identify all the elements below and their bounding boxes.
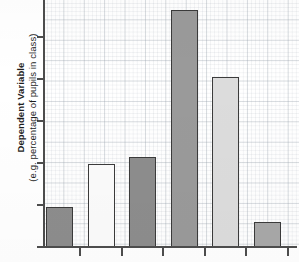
bar-3 [129, 157, 156, 247]
x-axis-line [43, 246, 297, 248]
bar-5 [212, 77, 239, 247]
x-tick-0 [79, 248, 81, 256]
y-axis-title-sub: (e.g. percentage of pupils in class) [27, 3, 39, 213]
x-tick-4 [245, 248, 247, 256]
bar-1 [46, 207, 73, 247]
bar-chart: Dependent Variable (e.g. percentage of p… [0, 0, 299, 262]
y-axis-title: Dependent Variable (e.g. percentage of p… [15, 3, 38, 213]
bar-6 [254, 222, 281, 247]
bar-2 [88, 164, 115, 247]
bar-4 [171, 10, 198, 247]
y-tick-0 [37, 246, 44, 248]
x-tick-1 [121, 248, 123, 256]
x-tick-5 [287, 248, 289, 256]
y-axis-title-main: Dependent Variable [15, 3, 27, 213]
x-tick-3 [204, 248, 206, 256]
x-tick-2 [162, 248, 164, 256]
